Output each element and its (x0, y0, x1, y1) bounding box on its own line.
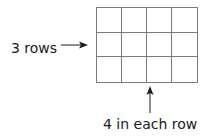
grid-cell (147, 33, 172, 58)
grid-cell (122, 33, 147, 58)
grid-cell (97, 8, 122, 33)
grid-cell (122, 8, 147, 33)
grid-cell (147, 8, 172, 33)
grid-cell (97, 57, 122, 82)
grid-cell (97, 33, 122, 58)
array-grid (96, 7, 198, 83)
grid-cell (172, 8, 197, 33)
columns-label: 4 in each row (103, 117, 197, 131)
grid-cell (122, 57, 147, 82)
grid-cell (172, 33, 197, 58)
grid-cell (172, 57, 197, 82)
right-arrow-icon (60, 40, 90, 50)
up-arrow-icon (145, 86, 155, 114)
rows-label: 3 rows (11, 41, 57, 55)
grid-cell (147, 57, 172, 82)
